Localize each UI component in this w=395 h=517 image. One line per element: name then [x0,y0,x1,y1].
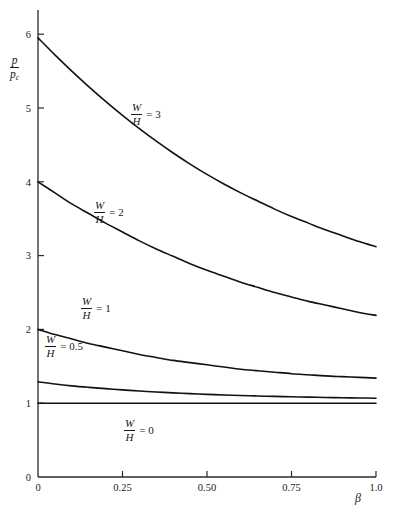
curve-label-value: = 0.5 [60,341,83,352]
curve-w-h-1 [38,329,376,378]
x-tick-label: 1.0 [369,482,382,493]
y-tick-label: 5 [26,103,31,114]
curve-label-fraction: W H [94,200,105,225]
curve-w-h-0.5 [38,382,376,398]
curve-label-denominator: H [46,347,56,359]
y-tick-label: 0 [26,472,31,483]
curve-label-numerator: W [124,418,135,431]
y-tick-label: 1 [26,398,31,409]
x-tick-label: 0 [35,482,40,493]
x-tick-label: 0.25 [113,482,131,493]
plot-area: 012345600.250.500.751.0 [0,0,395,517]
tick-labels-group: 012345600.250.500.751.0 [26,29,383,493]
curve-label-denominator: H [125,431,135,443]
x-tick-label: 0.75 [282,482,300,493]
curve-label-numerator: W [131,102,142,115]
curve-label-wh-0: W H = 0 [124,418,154,443]
y-tick-label: 4 [26,177,32,188]
y-axis-label: p pc [8,54,21,82]
curve-label-fraction: W H [45,334,56,359]
curve-label-fraction: W H [131,102,142,127]
y-tick-label: 3 [26,250,31,261]
curve-label-denominator: H [82,309,92,321]
curve-label-value: = 0 [139,425,153,436]
curve-label-wh-1: W H = 1 [81,296,111,321]
curve-label-fraction: W H [124,418,135,443]
curve-label-value: = 2 [109,207,123,218]
y-axis-label-subscript: c [16,73,19,82]
curve-label-wh-3: W H = 3 [131,102,161,127]
curve-label-denominator: H [95,213,105,225]
x-tick-label: 0.50 [198,482,216,493]
curve-label-numerator: W [45,334,56,347]
curve-label-value: = 3 [146,109,160,120]
curve-label-wh-05: W H = 0.5 [45,334,83,359]
y-axis-label-numerator: p [10,54,20,68]
y-tick-label: 2 [26,324,31,335]
x-axis-label: β [355,492,361,504]
y-tick-label: 6 [26,29,31,40]
curve-label-fraction: W H [81,296,92,321]
curve-label-denominator: H [132,115,142,127]
curve-label-numerator: W [81,296,92,309]
curve-label-numerator: W [94,200,105,213]
curves-group [38,38,376,403]
axes-group [38,10,376,477]
curve-label-value: = 1 [96,303,110,314]
y-axis-label-fraction: p pc [8,54,21,82]
curve-label-wh-2: W H = 2 [94,200,124,225]
curve-w-h-3 [38,38,376,247]
chart-figure: 012345600.250.500.751.0 p pc β W H = 3 W… [0,0,395,517]
y-axis-label-denominator: pc [8,68,21,82]
